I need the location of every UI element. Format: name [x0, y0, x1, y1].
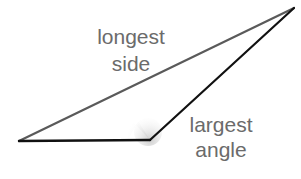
longest-side-label-line2: side	[112, 52, 151, 75]
largest-angle-label-line1: largest	[189, 113, 252, 136]
triangle-diagram: longest side largest angle	[0, 0, 301, 179]
longest-side-label-line1: longest	[97, 25, 165, 48]
base-side-line	[19, 140, 150, 141]
largest-angle-label-line2: angle	[195, 138, 246, 161]
